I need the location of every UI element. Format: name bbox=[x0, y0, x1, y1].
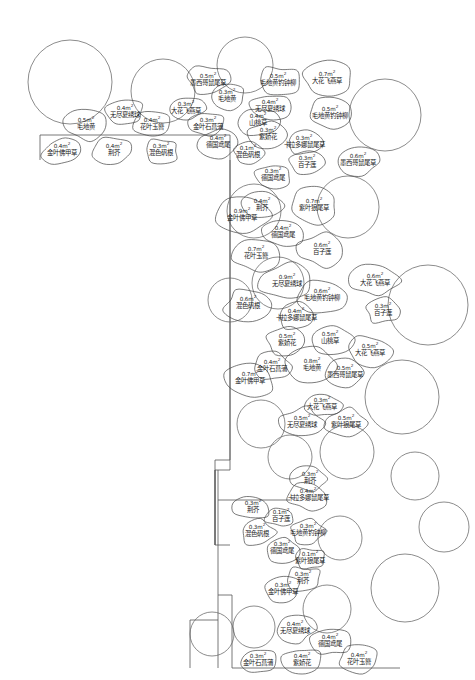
planting-mass bbox=[288, 567, 321, 592]
planting-mass bbox=[243, 518, 277, 545]
plan-drawing bbox=[0, 0, 475, 680]
tree-canopy bbox=[391, 452, 439, 500]
tree-canopy bbox=[217, 37, 273, 93]
planting-mass bbox=[312, 326, 355, 355]
planting-mass bbox=[41, 138, 81, 164]
tree-canopy bbox=[28, 40, 112, 124]
planting-mass bbox=[238, 109, 281, 135]
tree-canopy bbox=[419, 502, 469, 552]
tree-canopy bbox=[371, 554, 439, 622]
planting-mass bbox=[278, 406, 325, 436]
planting-mass bbox=[266, 326, 305, 356]
planting-mass bbox=[339, 645, 377, 674]
planting-mass bbox=[289, 151, 326, 175]
planting-mass bbox=[92, 137, 132, 164]
planting-mass bbox=[188, 114, 224, 137]
planting-mass bbox=[338, 147, 380, 177]
tree-canopy bbox=[303, 585, 351, 633]
planting-mass bbox=[234, 141, 266, 164]
planting-mass-group bbox=[41, 60, 402, 674]
planting-mass bbox=[197, 129, 238, 159]
planting-mass bbox=[224, 363, 273, 397]
planting-mass bbox=[325, 358, 364, 388]
planting-mass bbox=[255, 351, 293, 379]
tree-canopy bbox=[208, 278, 252, 322]
tree-canopy bbox=[190, 612, 234, 656]
tree-canopy bbox=[317, 176, 379, 238]
tree-canopy bbox=[318, 516, 362, 560]
tree-canopy bbox=[233, 606, 275, 648]
planting-mass bbox=[289, 130, 323, 155]
planting-mass bbox=[281, 650, 321, 674]
planting-mass bbox=[302, 60, 350, 96]
tree-canopy bbox=[268, 435, 312, 479]
planting-mass bbox=[249, 96, 291, 120]
tree-canopy bbox=[349, 79, 421, 151]
planting-mass bbox=[280, 301, 313, 329]
planting-mass bbox=[310, 97, 351, 129]
planting-mass bbox=[287, 482, 327, 511]
planting-mass bbox=[147, 139, 177, 164]
tree-canopy bbox=[320, 425, 374, 479]
planting-mass bbox=[304, 394, 343, 415]
planting-mass bbox=[247, 121, 287, 149]
planting-mass bbox=[265, 576, 300, 603]
planting-mass bbox=[267, 537, 300, 563]
planting-mass bbox=[297, 280, 347, 313]
planting-plan-canvas: 0.5m2墨西哥鼠尾草0.5m2毛地黄钓钟柳0.7m2大花飞燕草0.3m2毛地黄… bbox=[0, 0, 475, 680]
tree-canopy bbox=[388, 265, 468, 345]
planting-mass bbox=[296, 232, 342, 269]
planting-mass bbox=[241, 650, 276, 672]
tree-canopy bbox=[365, 360, 439, 434]
